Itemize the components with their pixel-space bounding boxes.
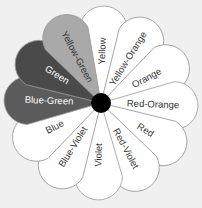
- petal-label: Violet: [92, 143, 104, 167]
- color-wheel-svg: YellowYellow-OrangeOrangeRed-OrangeRedRe…: [0, 0, 202, 208]
- petal-label: Yellow: [96, 37, 108, 65]
- center-hub: [91, 93, 111, 113]
- petal-label: Blue-Green: [25, 94, 74, 107]
- petal-label: Red-Orange: [127, 97, 180, 110]
- color-wheel: YellowYellow-OrangeOrangeRed-OrangeRedRe…: [0, 0, 202, 208]
